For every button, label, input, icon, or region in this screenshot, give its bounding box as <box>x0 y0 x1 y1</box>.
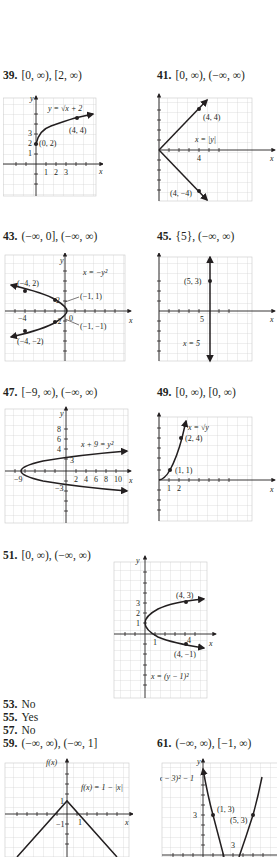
answer-text: [0, ∞), (−∞, ∞) <box>175 69 244 81</box>
tick-label: 2 <box>56 296 60 305</box>
answer-text: [−9, ∞), (−∞, ∞) <box>21 386 97 398</box>
answer-number: 43. <box>3 230 17 242</box>
answer-number: 51. <box>3 549 17 561</box>
origin-label: 0 <box>69 314 73 323</box>
answer-text: [0, ∞), [0, ∞) <box>175 386 235 398</box>
tick-label: 3 <box>28 129 32 138</box>
equation-label: x = |y| <box>194 135 216 144</box>
equation-label: f(x) = 1 − |x| <box>81 783 123 792</box>
point-label: (1, 1) <box>175 466 193 475</box>
equation-label: x = √y <box>187 423 209 432</box>
answer-text: (−∞, 0], (−∞, ∞) <box>21 230 97 242</box>
answer-text: No <box>21 724 35 736</box>
tick-label: 1 <box>44 168 48 177</box>
y-axis-label: f(x) <box>46 758 57 767</box>
equation-label: x + 9 = y² <box>80 440 114 449</box>
answer-41: 41.[0, ∞), (−∞, ∞) <box>157 69 245 82</box>
tick-label: −2 <box>53 317 62 326</box>
tick-label: 10 <box>114 475 122 484</box>
x-axis-label: x <box>269 485 274 494</box>
x-axis-label: x <box>208 639 213 648</box>
tick-label: 8 <box>104 475 108 484</box>
graph-59: f(x) x f(x) = 1 − |x| 1 −1 1 <box>3 757 133 857</box>
equation-label: x = (y − 1)² <box>150 672 189 681</box>
answer-number: 49. <box>157 386 171 398</box>
answer-number: 47. <box>3 386 17 398</box>
answer-text: No <box>21 698 35 710</box>
equation-label: y = √x + 2 <box>47 104 82 113</box>
tick-label: 1 <box>60 797 64 806</box>
tick-label: 2 <box>177 484 181 493</box>
tick-label: 4 <box>84 475 88 484</box>
tick-label: 5 <box>200 315 204 324</box>
tick-label: 1 <box>136 619 140 628</box>
graph-61: y y = (x − 3)² − 1 (1, 3) (5, 3) 3 3 <box>160 757 277 857</box>
answer-text: {5}, (−∞, ∞) <box>175 230 234 242</box>
tick-label: 3 <box>136 599 140 608</box>
point-label: (0, 2) <box>39 139 57 148</box>
tick-label: 4 <box>57 445 61 454</box>
answer-text: [0, ∞), (−∞, ∞) <box>21 549 90 561</box>
answer-53: 53.No <box>3 698 35 711</box>
tick-label: 2 <box>136 609 140 618</box>
answer-43: 43.(−∞, 0], (−∞, ∞) <box>3 230 97 243</box>
answer-text: (−∞, ∞), [−1, ∞) <box>175 737 251 749</box>
graph-51: y x (4, 3) (4, −1) x = (y − 1)² 3 2 1 1 … <box>110 550 220 700</box>
x-axis-label: x <box>98 167 103 176</box>
tick-label: −4 <box>18 314 27 323</box>
tick-label: −9 <box>14 475 23 484</box>
point-label: (4, 3) <box>176 591 194 600</box>
answer-text: Yes <box>21 711 38 723</box>
point-label: (−4, 2) <box>17 279 39 288</box>
answer-text: [0, ∞), [2, ∞) <box>21 69 81 81</box>
answer-number: 45. <box>157 230 171 242</box>
y-axis-label: y <box>59 409 64 418</box>
answer-number: 39. <box>3 69 17 81</box>
tick-label: 1 <box>78 818 82 827</box>
y-axis-label: y <box>59 256 64 265</box>
tick-label: 3 <box>70 456 74 465</box>
tick-label: 1 <box>28 149 32 158</box>
point-label: (4, −1) <box>174 650 196 659</box>
tick-label: 1 <box>167 484 171 493</box>
answer-47: 47.[−9, ∞), (−∞, ∞) <box>3 386 97 399</box>
graph-45: y x (5, 3) x = 5 3 5 <box>157 253 277 368</box>
tick-label: 4 <box>187 636 191 645</box>
tick-label: 1 <box>153 638 157 647</box>
tick-label: 8 <box>57 425 61 434</box>
tick-label: 2 <box>54 168 58 177</box>
equation-label: x = −y² <box>82 268 108 277</box>
answer-45: 45.{5}, (−∞, ∞) <box>157 230 234 243</box>
tick-label: 3 <box>64 168 68 177</box>
equation-label: y = (x − 3)² − 1 <box>160 774 194 783</box>
point-label: (4, 4) <box>203 113 221 122</box>
graph-41: y x (4, 4) (4, −4) x = |y| 4 −4 4 0 <box>157 92 277 212</box>
tick-label: −1 <box>56 820 65 829</box>
answer-57: 57.No <box>3 724 35 737</box>
y-axis-label: y <box>196 757 201 766</box>
graph-39: y x y = √x + 2 (0, 2) (4, 4) 3 2 1 1 2 3 <box>3 94 103 204</box>
point-label: (5, 3) <box>230 816 248 825</box>
point-label: (−1, 1) <box>80 292 102 301</box>
point-label: (−1, −1) <box>80 322 107 331</box>
tick-label: 3 <box>231 841 235 850</box>
graph-47: y x x + 9 = y² 8 6 4 3 −3 −9 2 4 6 8 10 <box>3 405 133 525</box>
point-label: (4, 4) <box>69 126 87 135</box>
x-axis-label: x <box>269 315 274 324</box>
answer-55: 55.Yes <box>3 711 38 724</box>
point-label: (1, 3) <box>217 805 235 814</box>
x-axis-label: x <box>269 154 274 163</box>
equation-label: x = 5 <box>182 339 200 348</box>
point-label: (−4, −2) <box>17 337 44 346</box>
answer-text: (−∞, ∞), (−∞, 1] <box>21 737 97 749</box>
tick-label: 4 <box>197 154 201 163</box>
point-label: (2, 4) <box>185 434 203 443</box>
answer-39: 39.[0, ∞), [2, ∞) <box>3 69 82 82</box>
answer-number: 53. <box>3 698 17 710</box>
x-axis-label: x <box>124 818 129 827</box>
tick-label: 3 <box>193 811 197 820</box>
answer-number: 57. <box>3 724 17 736</box>
answer-49: 49.[0, ∞), [0, ∞) <box>157 386 236 399</box>
tick-label: 6 <box>57 435 61 444</box>
answer-59: 59.(−∞, ∞), (−∞, 1] <box>3 737 97 750</box>
